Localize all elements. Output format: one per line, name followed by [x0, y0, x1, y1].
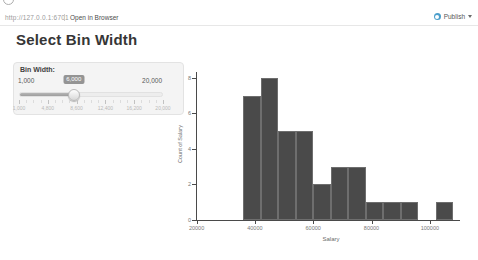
y-axis-tick	[192, 184, 196, 185]
x-axis-tick	[255, 221, 256, 224]
publish-caret-icon	[468, 15, 472, 18]
y-axis-tick	[192, 113, 196, 114]
publish-icon	[434, 13, 441, 20]
slider-grid: 1,0004,8008,60012,40016,20020,000	[19, 100, 163, 112]
histogram-plot: Count of Salary Salary 02468200004000060…	[196, 68, 478, 260]
slider-grid-tick	[163, 100, 164, 104]
y-axis-tick	[192, 149, 196, 150]
slider-grid-tick	[134, 100, 135, 104]
slider-value-tooltip: 6,000	[63, 75, 84, 84]
y-axis-title: Count of Salary	[175, 68, 185, 220]
histogram-bar	[348, 167, 365, 220]
app-window: http://127.0.0.1:6701 Open in Browser Pu…	[0, 0, 478, 260]
slider-grid-tick	[19, 100, 20, 104]
x-tick-label: 60000	[306, 225, 321, 231]
y-axis-line	[196, 72, 197, 220]
bin-width-label: Bin Width:	[20, 66, 55, 73]
viewer-toolbar: http://127.0.0.1:6701 Open in Browser Pu…	[0, 0, 478, 26]
slider-track[interactable]	[19, 92, 163, 97]
slider-max-label: 20,000	[142, 77, 162, 84]
histogram-bar	[261, 78, 278, 220]
slider-grid-label: 1,000	[13, 105, 26, 111]
histogram-bar	[366, 202, 383, 220]
reload-icon[interactable]	[3, 0, 14, 5]
histogram-bar	[436, 202, 453, 220]
x-tick-label: 40000	[247, 225, 262, 231]
x-axis-line	[196, 220, 460, 221]
y-axis-tick	[192, 220, 196, 221]
publish-label: Publish	[444, 13, 465, 20]
y-tick-label: 6	[180, 110, 191, 116]
slider-min-label: 1,000	[18, 77, 34, 84]
y-tick-label: 8	[180, 75, 191, 81]
x-axis-tick	[313, 221, 314, 224]
x-axis-tick	[372, 221, 373, 224]
histogram-bar	[331, 167, 348, 220]
x-axis-tick	[430, 221, 431, 224]
slider-grid-label: 20,000	[155, 105, 170, 111]
x-axis-title: Salary	[196, 236, 466, 242]
slider-handle[interactable]	[68, 89, 80, 101]
x-axis-tick	[197, 221, 198, 224]
y-tick-label: 2	[180, 181, 191, 187]
histogram-bar	[296, 131, 313, 220]
slider-grid-label: 4,800	[42, 105, 55, 111]
slider-grid-tick	[48, 100, 49, 104]
page-title: Select Bin Width	[16, 31, 137, 48]
y-axis-tick	[192, 78, 196, 79]
app-url: http://127.0.0.1:6701	[5, 14, 69, 21]
histogram-bar	[278, 131, 295, 220]
toolbar-divider	[64, 14, 65, 21]
histogram-bar	[243, 96, 260, 220]
open-in-browser-link[interactable]: Open in Browser	[70, 14, 118, 21]
slider-grid-tick	[105, 100, 106, 104]
bin-width-panel: Bin Width: 1,000 20,000 6,000 1,0004,800…	[13, 62, 184, 115]
x-tick-label: 100000	[421, 225, 439, 231]
histogram-bar	[383, 202, 400, 220]
slider-grid-tick	[77, 100, 78, 104]
histogram-bar	[313, 184, 330, 220]
slider-grid-label: 12,400	[98, 105, 113, 111]
slider-minmax-row: 1,000 20,000	[18, 77, 162, 84]
y-tick-label: 4	[180, 146, 191, 152]
y-tick-label: 0	[180, 217, 191, 223]
x-tick-label: 80000	[364, 225, 379, 231]
x-tick-label: 20000	[189, 225, 204, 231]
publish-button[interactable]: Publish	[434, 13, 472, 20]
slider-grid-label: 16,200	[127, 105, 142, 111]
histogram-bar	[401, 202, 418, 220]
slider-grid-label: 8,600	[70, 105, 83, 111]
slider-fill	[20, 93, 74, 96]
